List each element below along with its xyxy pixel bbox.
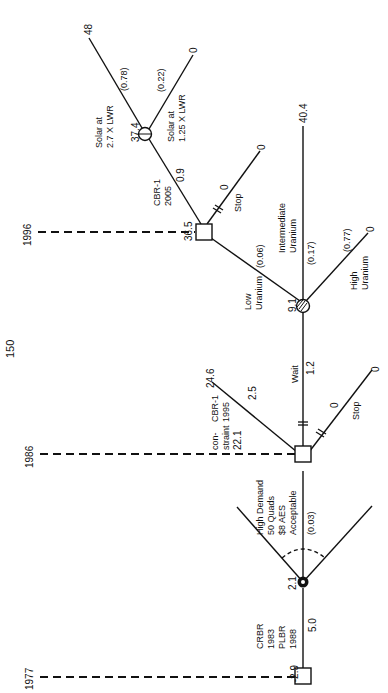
probability-solar-1.25: (0.22) xyxy=(156,68,166,92)
payoff-stop-1996-near: 0 xyxy=(219,184,230,190)
label-wait: Wait xyxy=(290,365,300,383)
label-line: Uranium xyxy=(254,276,264,310)
decision-node-1996 xyxy=(196,224,212,240)
label-line: High Demand xyxy=(255,480,265,535)
label-line: Solar at xyxy=(166,110,176,142)
label-line: High xyxy=(349,271,359,290)
value-1986: 22.1 xyxy=(232,430,243,450)
label-start: CRBR 1983 PLBR 1988 xyxy=(255,623,298,649)
label-line: Uranium xyxy=(288,219,298,253)
value-solar: 37.4 xyxy=(130,122,141,142)
cost-cbr1-2005: 0.9 xyxy=(175,168,186,182)
label-line: Solar at xyxy=(94,116,104,148)
label-line: 1.25 X LWR xyxy=(177,94,187,142)
label-line: Acceptable xyxy=(288,490,298,535)
payoff-high-uranium: 0 xyxy=(365,226,376,232)
year-label-1977: 1977 xyxy=(24,667,35,690)
label-line: Intermediate xyxy=(277,203,287,253)
label-line: PLBR xyxy=(277,625,287,649)
payoff-intermediate-uranium: 40.4 xyxy=(298,103,309,123)
payoff-stop-1996: 0 xyxy=(256,144,267,150)
year-label-1986: 1986 xyxy=(24,445,35,468)
label-solar-2.7: Solar at 2.7 X LWR xyxy=(94,105,115,148)
chance-node-uranium xyxy=(297,300,310,313)
label-demand: High Demand 50 Quads $8 AES Acceptable xyxy=(255,480,298,535)
label-line: 50 Quads xyxy=(266,495,276,535)
label-line: 1983 xyxy=(266,629,276,649)
label-line: Low xyxy=(243,293,253,310)
label-line: 2005 xyxy=(163,186,173,206)
probability-intermediate-uranium: (0.17) xyxy=(306,241,316,265)
value-uranium: 9.1 xyxy=(287,298,298,312)
timeline-1977: 1977 xyxy=(24,667,296,690)
label-stop-1996: Stop xyxy=(233,193,243,212)
value-start: -2.9 xyxy=(289,665,300,683)
payoff-solar-2.7: 48 xyxy=(83,23,94,35)
label-line: 1988 xyxy=(288,629,298,649)
label-cbr1-1995: CBR-1 1995 xyxy=(210,395,231,422)
probability-demand: (0.03) xyxy=(306,511,316,535)
probability-high-uranium: (0.77) xyxy=(342,228,352,252)
timeline-1996: 1996 xyxy=(22,223,195,246)
label-line: $8 AES xyxy=(277,505,287,535)
edge-solar-2.7 xyxy=(89,38,142,128)
label-line: con- xyxy=(210,432,220,450)
payoff-stop-1986: 0 xyxy=(370,366,381,372)
label-high-uranium: High Uranium xyxy=(349,256,370,290)
label-line: CRBR xyxy=(255,623,265,649)
label-cbr1-2005: CBR-1 2005 xyxy=(152,179,173,206)
timeline-1986: 1986 xyxy=(24,445,295,468)
label-stop-1986: Stop xyxy=(351,401,361,420)
label-line: 2.7 X LWR xyxy=(105,105,115,148)
cost-cbr1-1995: 2.5 xyxy=(247,386,258,400)
decision-node-1986 xyxy=(295,446,311,462)
label-line: CBR-1 xyxy=(152,179,162,206)
label-line: straint xyxy=(221,425,231,450)
value-demand: 2.1 xyxy=(287,576,298,590)
label-line: Uranium xyxy=(360,256,370,290)
edge-stop-1996 xyxy=(207,151,260,224)
page-number: 150 xyxy=(4,340,16,358)
label-intermediate-uranium: Intermediate Uranium xyxy=(277,203,298,253)
cost-start-branch: 5.0 xyxy=(307,618,318,632)
label-low-uranium: Low Uranium xyxy=(243,276,264,310)
probability-low-uranium: (0.06) xyxy=(255,244,265,268)
value-1996: 36.5 xyxy=(183,221,194,241)
label-constraint: con- straint xyxy=(210,425,231,450)
year-label-1996: 1996 xyxy=(22,223,33,246)
payoff-stop-1986-near: 0 xyxy=(329,402,340,408)
label-line: 1995 xyxy=(221,402,231,422)
label-line: CBR-1 xyxy=(210,395,220,422)
payoff-solar-1.25: 0 xyxy=(188,47,199,53)
payoff-cbr1-1995: 24.6 xyxy=(205,368,216,388)
label-solar-1.25: Solar at 1.25 X LWR xyxy=(166,94,187,142)
cost-wait: 1.2 xyxy=(305,361,316,375)
decision-tree-diagram: 1977 1986 1996 150 xyxy=(0,0,388,693)
probability-solar-2.7: (0.78) xyxy=(119,67,129,91)
edge-stop-1986 xyxy=(309,370,372,452)
